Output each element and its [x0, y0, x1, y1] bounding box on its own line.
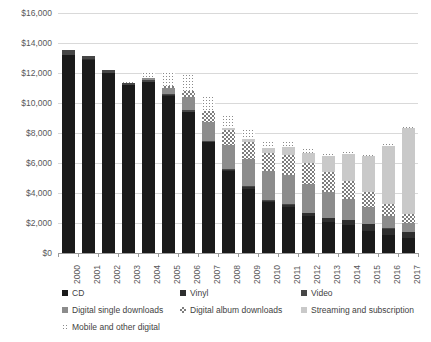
x-axis-tick-label: 2002 — [113, 265, 122, 284]
bar-2014 — [342, 151, 355, 253]
legend-label: Mobile and other digital — [72, 323, 160, 332]
legend-item-mobile[interactable]: Mobile and other digital — [62, 319, 160, 335]
bar-segment — [362, 207, 375, 224]
bar-segment — [322, 156, 335, 172]
x-axis-tick-label: 2014 — [353, 265, 362, 284]
bar-segment — [202, 142, 215, 253]
bar-segment — [302, 216, 315, 254]
y-axis-tick-label: $8,000 — [26, 129, 52, 138]
bar-segment — [182, 112, 195, 253]
bar-segment — [262, 202, 275, 253]
bar-segment — [242, 189, 255, 254]
y-axis-tick-label: $6,000 — [26, 159, 52, 168]
legend-label: Digital album downloads — [190, 306, 282, 315]
legend-swatch-icon — [62, 290, 68, 296]
bar-segment — [282, 155, 295, 175]
bar-segment — [262, 171, 275, 200]
x-axis-tick-label: 2003 — [133, 265, 142, 284]
bar-2012 — [302, 148, 315, 253]
bar-segment — [202, 111, 215, 122]
legend-item-dad[interactable]: Digital album downloads — [180, 302, 282, 318]
x-axis-tick-label: 2010 — [273, 265, 282, 284]
bar-segment — [382, 235, 395, 253]
y-axis-labels: $16,000$14,000$12,000$10,000$8,000$6,000… — [0, 13, 52, 253]
bar-segment — [362, 192, 375, 208]
x-axis-tick — [418, 253, 419, 257]
legend-swatch-icon — [180, 307, 186, 313]
bar-segment — [262, 153, 275, 172]
bar-segment — [242, 159, 255, 186]
bar-segment — [302, 163, 315, 184]
bar-2002 — [102, 70, 115, 253]
x-axis-tick-label: 2016 — [393, 265, 402, 284]
bar-segment — [142, 82, 155, 253]
bar-segment — [162, 96, 175, 254]
legend-label: CD — [72, 289, 84, 298]
bar-segment — [402, 214, 415, 223]
bar-segment — [362, 156, 375, 191]
bar-segment — [222, 130, 235, 145]
y-axis-tick-label: $10,000 — [21, 99, 52, 108]
legend-row: CDVinylVideo — [56, 285, 431, 301]
x-axis-tick-label: 2008 — [233, 265, 242, 284]
bar-segment — [382, 146, 395, 205]
y-axis-tick-label: $0 — [43, 249, 52, 258]
stacked-bar-chart: $16,000$14,000$12,000$10,000$8,000$6,000… — [0, 0, 431, 342]
bar-segment — [82, 60, 95, 254]
x-axis-tick-label: 2000 — [73, 265, 82, 284]
x-axis-tick-label: 2009 — [253, 265, 262, 284]
bar-segment — [382, 216, 395, 228]
legend-item-cd[interactable]: CD — [62, 285, 84, 301]
legend-swatch-icon — [62, 307, 68, 313]
legend-item-video[interactable]: Video — [301, 285, 333, 301]
x-axis-tick-label: 2005 — [173, 265, 182, 284]
y-axis-tick-label: $16,000 — [21, 9, 52, 18]
bar-2017 — [402, 126, 415, 253]
bar-segment — [282, 175, 295, 204]
legend-swatch-icon — [301, 307, 307, 313]
bar-segment — [322, 222, 335, 254]
bar-segment — [282, 147, 295, 154]
bar-2007 — [202, 96, 215, 253]
bar-2016 — [382, 143, 395, 253]
bar-2005 — [162, 72, 175, 253]
bar-segment — [222, 115, 235, 129]
x-axis-tick-label: 2012 — [313, 265, 322, 284]
bar-group — [58, 13, 418, 253]
bar-segment — [382, 204, 395, 216]
bar-segment — [182, 97, 195, 111]
bar-segment — [302, 153, 315, 164]
x-axis-tick-label: 2001 — [93, 265, 102, 284]
bar-segment — [402, 238, 415, 253]
bar-segment — [222, 171, 235, 254]
bar-segment — [402, 223, 415, 232]
bar-segment — [202, 96, 215, 111]
bar-2008 — [222, 115, 235, 253]
legend-swatch-icon — [301, 290, 307, 296]
x-axis-tick-label: 2017 — [413, 265, 422, 284]
legend-row: Mobile and other digital — [56, 319, 431, 335]
legend-label: Video — [311, 289, 333, 298]
bar-segment — [182, 74, 195, 91]
legend-item-stream[interactable]: Streaming and subscription — [301, 302, 414, 318]
bar-2015 — [362, 154, 375, 253]
chart-legend: CDVinylVideoDigital single downloadsDigi… — [56, 285, 431, 337]
bar-2010 — [262, 141, 275, 253]
y-axis-tick-label: $4,000 — [26, 189, 52, 198]
bar-segment — [342, 225, 355, 254]
y-axis-tick-label: $12,000 — [21, 69, 52, 78]
bar-segment — [342, 181, 355, 199]
bar-segment — [62, 55, 75, 253]
bar-segment — [202, 122, 215, 141]
legend-item-dsd[interactable]: Digital single downloads — [62, 302, 163, 318]
bar-segment — [122, 85, 135, 253]
plot-area — [58, 13, 418, 253]
legend-item-vinyl[interactable]: Vinyl — [180, 285, 208, 301]
bar-2006 — [182, 74, 195, 253]
bar-2000 — [62, 50, 75, 253]
bar-segment — [342, 154, 355, 181]
bar-segment — [322, 172, 335, 192]
bar-segment — [222, 145, 235, 169]
bar-segment — [162, 72, 175, 86]
x-axis-tick-label: 2011 — [293, 266, 302, 284]
